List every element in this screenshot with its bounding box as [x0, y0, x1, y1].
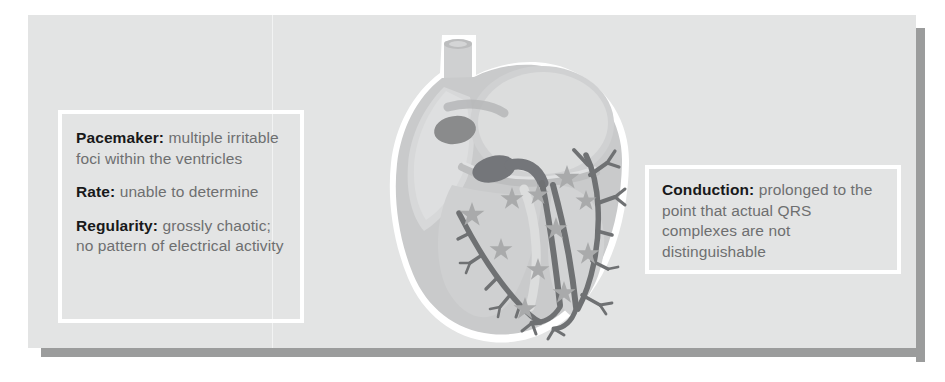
figure-panel: Pacemaker: multiple irritable foci withi…	[28, 15, 916, 348]
panel-shadow-right	[916, 28, 925, 362]
callout-label-rate: Rate:	[76, 183, 115, 200]
callout-label-regularity: Regularity:	[76, 217, 158, 234]
callout-label-conduction: Conduction:	[662, 181, 754, 198]
callout-line-rate: Rate: unable to determine	[76, 182, 288, 203]
callout-text-rate: unable to determine	[115, 183, 258, 200]
callout-line-pacemaker: Pacemaker: multiple irritable foci withi…	[76, 128, 288, 169]
heart-diagram	[324, 17, 654, 347]
callout-label-pacemaker: Pacemaker:	[76, 129, 164, 146]
callout-line-conduction: Conduction: prolonged to the point that …	[662, 180, 887, 262]
callout-line-regularity: Regularity: grossly chaotic; no pattern …	[76, 216, 288, 257]
callout-box-right: Conduction: prolonged to the point that …	[645, 165, 901, 274]
panel-shadow-bottom	[41, 348, 925, 357]
callout-box-left: Pacemaker: multiple irritable foci withi…	[58, 110, 304, 323]
